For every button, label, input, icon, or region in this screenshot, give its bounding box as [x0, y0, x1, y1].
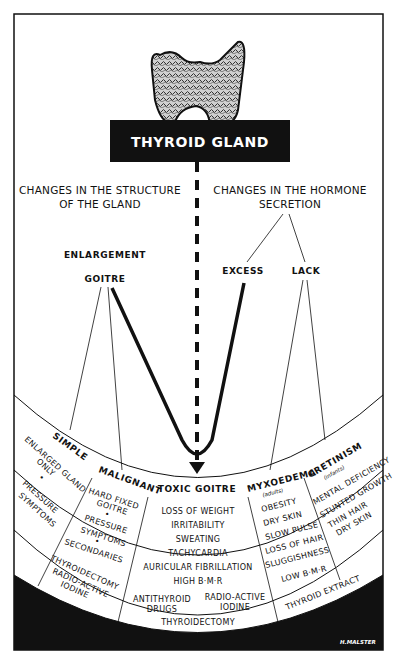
toxic-goitre-treatment: ANTITHYROID DRUGS RADIO-ACTIVE IODINE TH…: [133, 593, 265, 627]
svg-text:SWEATING: SWEATING: [176, 535, 221, 544]
svg-text:TACHYCARDIA: TACHYCARDIA: [167, 549, 228, 558]
node-excess: EXCESS: [222, 266, 264, 276]
thyroid-gland-illustration: [152, 42, 245, 126]
svg-text:ANTITHYROID: ANTITHYROID: [133, 595, 191, 604]
svg-text:LOW B·M·R: LOW B·M·R: [280, 564, 328, 584]
node-enlargement: ENLARGEMENT: [64, 250, 146, 260]
svg-text:LOSS OF WEIGHT: LOSS OF WEIGHT: [161, 507, 234, 516]
svg-text:IODINE: IODINE: [220, 603, 250, 612]
toxic-goitre-path: [112, 283, 244, 454]
svg-text:AURICULAR FIBRILLATION: AURICULAR FIBRILLATION: [143, 563, 252, 572]
svg-text:IRRITABILITY: IRRITABILITY: [171, 521, 225, 530]
svg-text:DRUGS: DRUGS: [147, 605, 177, 614]
branch-structure-line1: CHANGES IN THE STRUCTURE: [19, 184, 181, 196]
artist-signature: H.MALSTER: [340, 639, 376, 645]
branch-structure-line2: OF THE GLAND: [59, 198, 141, 210]
label-simple: SIMPLE: [51, 431, 90, 463]
svg-text:HIGH B·M·R: HIGH B·M·R: [173, 577, 222, 586]
svg-text:RADIO-ACTIVE: RADIO-ACTIVE: [205, 593, 266, 602]
arrow-head-icon: [189, 462, 205, 474]
title-text: THYROID GLAND: [131, 134, 269, 150]
label-toxic-goitre: TOXIC GOITRE: [158, 484, 236, 494]
node-goitre: GOITRE: [84, 274, 125, 284]
svg-text:THYROIDECTOMY: THYROIDECTOMY: [160, 618, 235, 627]
malignant-symptoms: HARD FIXED GOITRE • PRESSURE SYMPTOMS • …: [63, 486, 140, 564]
branch-hormone-line1: CHANGES IN THE HORMONE: [213, 184, 366, 196]
node-lack: LACK: [292, 266, 321, 276]
svg-text:•: •: [37, 473, 47, 483]
myxoedema-symptoms: OBESITY DRY SKIN SLOW PULSE LOSS OF HAIR…: [260, 496, 330, 583]
thyroid-diagram: THYROID GLAND CHANGES IN THE STRUCTURE O…: [0, 0, 394, 664]
svg-text:•: •: [103, 509, 111, 519]
toxic-goitre-symptoms: LOSS OF WEIGHT IRRITABILITY SWEATING TAC…: [143, 507, 252, 586]
branch-hormone-line2: SECRETION: [259, 198, 321, 210]
